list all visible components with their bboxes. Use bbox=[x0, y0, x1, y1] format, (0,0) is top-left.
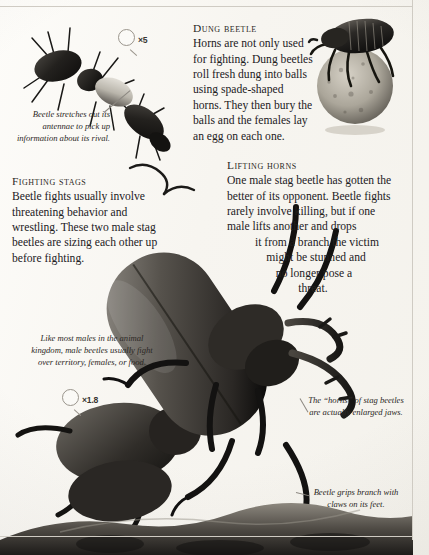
caption-claws: Beetle grips branch with claws on its fe… bbox=[307, 486, 405, 510]
magnifier-icon bbox=[118, 29, 135, 46]
fighting-stags-section: Fighting stags Beetle fights usually inv… bbox=[12, 175, 174, 266]
scale-marker-rove-beetle: ×5 bbox=[118, 29, 147, 46]
dung-beetle-photo bbox=[305, 8, 409, 143]
bottom-rule bbox=[0, 536, 413, 537]
lifting-horns-line-1: One male stag beetle has gotten bbox=[227, 174, 374, 187]
lifting-horns-section: Lifting horns One male stag beetle has g… bbox=[227, 159, 399, 296]
dung-beetle-body: Horns are not only used for fighting. Du… bbox=[193, 36, 315, 144]
right-rule bbox=[412, 0, 413, 540]
branch-ground-photo bbox=[0, 470, 413, 555]
lifting-horns-line-5: it from a branch the victim bbox=[227, 235, 399, 250]
lifting-horns-body: One male stag beetle has gotten the bett… bbox=[227, 173, 399, 296]
dung-beetle-section: Dung beetle Horns are not only used for … bbox=[193, 22, 315, 144]
caption-antennae: Beetle stretches out its antennae to pic… bbox=[6, 108, 110, 145]
caption-males-fight: Like most males in the animal kingdom, m… bbox=[24, 332, 160, 369]
scale-value-rove: ×5 bbox=[138, 35, 147, 45]
fighting-stags-body: Beetle fights usually involve threatenin… bbox=[12, 189, 174, 266]
book-page: Dung beetle Horns are not only used for … bbox=[0, 0, 429, 555]
scale-marker-stag-beetle: ×1.8 bbox=[62, 389, 98, 406]
magnifier-icon bbox=[62, 389, 79, 406]
caption-jaws: The “horns” of stag beetles are actually… bbox=[307, 394, 405, 418]
lifting-horns-line-8: threat. bbox=[227, 281, 399, 296]
dung-beetle-heading: Dung beetle bbox=[193, 22, 315, 35]
lifting-horns-heading: Lifting horns bbox=[227, 159, 399, 172]
lifting-horns-line-6: might be stunned and bbox=[227, 250, 399, 265]
fighting-stags-heading: Fighting stags bbox=[12, 175, 174, 188]
lifting-horns-line-7: no longer pose a bbox=[227, 266, 399, 281]
scale-value-stag: ×1.8 bbox=[82, 395, 98, 405]
top-rule bbox=[0, 6, 413, 7]
